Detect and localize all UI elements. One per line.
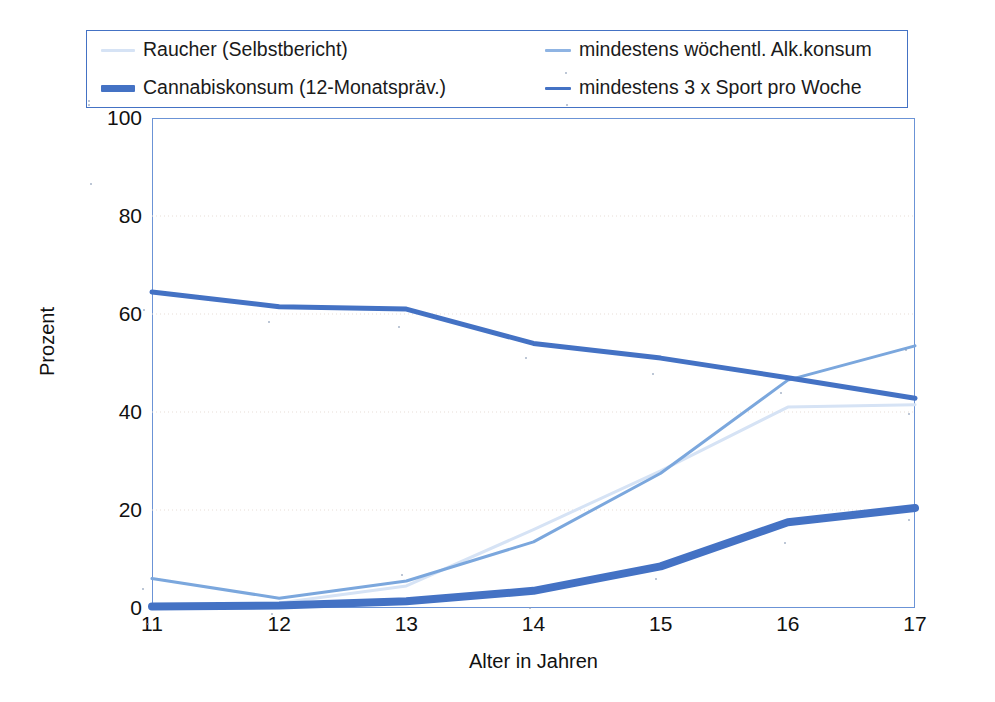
scan-speck	[401, 574, 403, 576]
scan-speck	[271, 613, 273, 615]
plot-canvas	[152, 118, 915, 608]
legend-item-raucher: Raucher (Selbstbericht)	[87, 40, 539, 60]
series-line-2	[152, 508, 915, 606]
y-tick-100: 100	[84, 106, 142, 130]
series-line-0	[152, 405, 915, 606]
series-line-1	[152, 346, 915, 598]
y-tick-40: 40	[84, 400, 142, 424]
y-tick-20: 20	[84, 498, 142, 522]
series-line-3	[152, 292, 915, 398]
scan-speck	[566, 104, 568, 106]
y-axis-ticks: 100 80 60 40 20 0	[84, 118, 142, 608]
scan-speck	[147, 623, 149, 625]
scan-speck	[908, 413, 910, 415]
scan-speck	[525, 357, 527, 359]
scan-speck	[143, 309, 145, 311]
scan-speck	[565, 72, 567, 74]
scan-speck	[655, 578, 657, 580]
x-tick-12: 12	[267, 612, 290, 636]
scan-speck	[908, 519, 910, 521]
scan-speck	[652, 373, 654, 375]
scan-speck	[88, 100, 90, 102]
scan-speck	[88, 104, 90, 106]
chart-figure: Raucher (Selbstbericht) mindestens wöche…	[0, 0, 995, 702]
line-swatch-alkohol-icon	[545, 49, 571, 52]
y-axis-title: Prozent	[36, 262, 59, 422]
data-series-group	[152, 292, 915, 607]
legend-label-cannabis: Cannabiskonsum (12-Monatspräv.)	[143, 78, 446, 98]
scan-speck	[398, 326, 400, 328]
y-tick-80: 80	[84, 204, 142, 228]
legend-label-sport: mindestens 3 x Sport pro Woche	[579, 78, 862, 98]
scan-speck	[905, 349, 907, 351]
legend-label-alkohol: mindestens wöchentl. Alk.konsum	[579, 40, 872, 60]
x-axis-ticks: 11121314151617	[152, 612, 915, 642]
scan-speck	[142, 588, 144, 590]
legend-item-sport: mindestens 3 x Sport pro Woche	[539, 78, 907, 98]
y-tick-0: 0	[84, 596, 142, 620]
legend-item-cannabis: Cannabiskonsum (12-Monatspräv.)	[87, 78, 539, 98]
line-swatch-sport-icon	[545, 87, 571, 90]
scan-speck	[90, 183, 92, 185]
x-tick-15: 15	[649, 612, 672, 636]
y-tick-60: 60	[84, 302, 142, 326]
x-tick-17: 17	[903, 612, 926, 636]
x-tick-16: 16	[776, 612, 799, 636]
scan-speck	[784, 542, 786, 544]
legend-item-alkohol: mindestens wöchentl. Alk.konsum	[539, 40, 907, 60]
line-swatch-cannabis-icon	[101, 85, 135, 92]
chart-legend: Raucher (Selbstbericht) mindestens wöche…	[86, 30, 908, 108]
gridlines-group	[152, 216, 915, 510]
scan-speck	[529, 607, 531, 609]
x-tick-14: 14	[522, 612, 545, 636]
line-swatch-raucher-icon	[101, 49, 135, 52]
scan-speck	[780, 392, 782, 394]
legend-label-raucher: Raucher (Selbstbericht)	[143, 40, 348, 60]
x-tick-13: 13	[395, 612, 418, 636]
x-tick-11: 11	[141, 612, 163, 636]
scan-speck	[268, 321, 270, 323]
x-axis-title: Alter in Jahren	[152, 650, 915, 673]
